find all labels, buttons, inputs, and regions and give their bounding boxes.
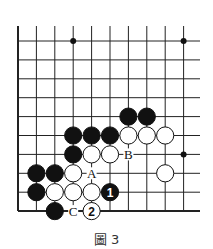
white-stone [120,127,137,144]
black-stone [28,165,45,182]
white-stone [83,146,100,163]
black-stone [65,146,82,163]
black-stone [28,184,45,201]
black-stone [46,165,63,182]
go-board: BAC12 [0,0,213,229]
marker-letter-c: C [69,204,78,219]
move-number-2: 2 [88,205,95,219]
white-stone [101,146,118,163]
marker-letter-b: B [124,147,133,162]
white-stone [157,127,174,144]
black-stone [83,127,100,144]
black-stone [65,127,82,144]
white-stone [138,127,155,144]
star-point [70,38,76,44]
black-stone [101,127,118,144]
black-stone [46,203,63,220]
white-stone [83,184,100,201]
figure-caption: 圖 3 [0,229,213,248]
white-stone [46,184,63,201]
star-point [181,151,187,157]
white-stone [65,184,82,201]
black-stone [138,108,155,125]
move-number-1: 1 [107,186,114,200]
white-stone [65,165,82,182]
star-point [181,38,187,44]
white-stone [157,165,174,182]
black-stone [120,108,137,125]
marker-letter-a: A [87,166,97,181]
